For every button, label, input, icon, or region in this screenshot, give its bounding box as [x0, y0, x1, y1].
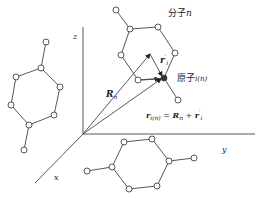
- atom-i-n: [161, 75, 167, 81]
- bottom-molecule-atoms: [84, 136, 197, 192]
- atom-label: 原子i(n): [177, 74, 207, 83]
- y-axis-label: y: [222, 146, 227, 154]
- x-axis: [35, 134, 83, 183]
- position-equation: ri(n) = Rn + r′i: [146, 109, 202, 121]
- bottom-molecule-bonds: [87, 139, 194, 189]
- R-n-label: Rn: [106, 90, 117, 100]
- molecule-n-bonds: [116, 10, 178, 100]
- r-prime-label: r′i: [160, 54, 168, 66]
- z-axis-label: z: [73, 33, 77, 41]
- x-axis-label: x: [54, 174, 59, 182]
- left-molecule-atoms: [8, 39, 63, 153]
- molecule-label: 分子n: [168, 9, 192, 18]
- molecular-coordinate-diagram: [0, 0, 262, 199]
- left-molecule-bonds: [11, 42, 60, 150]
